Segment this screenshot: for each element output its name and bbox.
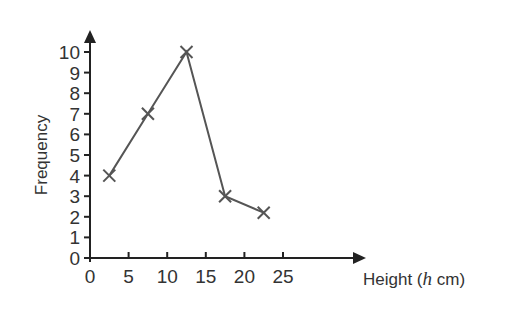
x-tick-label: 10 [157,266,178,287]
x-tick-label: 25 [272,266,293,287]
y-tick-label: 7 [69,104,80,125]
y-axis-ticks: 012345678910 [59,42,90,269]
series-line [109,52,263,213]
y-tick-label: 1 [69,227,80,248]
x-marker-icon [181,46,193,58]
y-tick-label: 8 [69,83,80,104]
y-tick-label: 4 [69,166,80,187]
y-tick-label: 3 [69,186,80,207]
x-axis-arrow-icon [353,252,366,264]
data-markers [103,46,269,219]
x-marker-icon [103,170,115,182]
y-axis-arrow-icon [84,30,96,43]
y-tick-label: 2 [69,207,80,228]
x-marker-icon [142,108,154,120]
x-tick-label: 5 [123,266,134,287]
x-axis-label: Height (h cm) [363,268,465,289]
x-marker-icon [219,190,231,202]
y-tick-label: 9 [69,63,80,84]
x-tick-label: 20 [234,266,255,287]
y-tick-label: 10 [59,42,80,63]
y-tick-label: 5 [69,145,80,166]
y-axis-label: Frequency [32,114,51,195]
x-tick-label: 15 [195,266,216,287]
frequency-polygon-chart: 012345678910 0510152025 Frequency Height… [0,0,521,313]
y-tick-label: 6 [69,124,80,145]
x-marker-icon [258,207,270,219]
x-tick-label: 0 [85,266,96,287]
y-tick-label: 0 [69,248,80,269]
